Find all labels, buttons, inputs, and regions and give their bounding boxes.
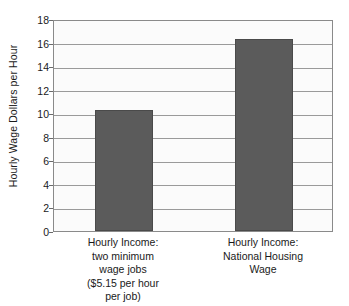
y-tick-label: 2 xyxy=(26,203,49,213)
y-tick-label: 4 xyxy=(26,180,49,190)
category-label-line: per job) xyxy=(53,290,193,304)
category-label: Hourly Income:National HousingWage xyxy=(193,236,333,277)
category-label-line: two minimum xyxy=(53,250,193,264)
x-axis-category-labels: Hourly Income:two minimumwage jobs($5.15… xyxy=(53,236,333,306)
bar xyxy=(235,39,293,231)
y-tick-label: 0 xyxy=(26,227,49,237)
bars-layer xyxy=(54,21,332,231)
y-tick-mark xyxy=(49,138,53,139)
y-axis-tick-labels: 024681012141618 xyxy=(26,20,49,232)
category-label-line: Wage xyxy=(193,263,333,277)
y-tick-label: 6 xyxy=(26,156,49,166)
category-label-line: Hourly Income: xyxy=(53,236,193,250)
y-tick-label: 16 xyxy=(26,39,49,49)
category-label-line: National Housing xyxy=(193,250,333,264)
category-label-line: wage jobs xyxy=(53,263,193,277)
category-label-line: ($5.15 per hour xyxy=(53,277,193,291)
y-axis-title-text: Hourly Wage Dollars per Hour xyxy=(7,45,19,187)
y-tick-mark xyxy=(49,20,53,21)
y-axis-title: Hourly Wage Dollars per Hour xyxy=(0,0,26,232)
y-tick-mark xyxy=(49,185,53,186)
y-tick-mark xyxy=(49,44,53,45)
category-label: Hourly Income:two minimumwage jobs($5.15… xyxy=(53,236,193,304)
y-tick-label: 10 xyxy=(26,109,49,119)
y-tick-mark xyxy=(49,161,53,162)
y-tick-label: 8 xyxy=(26,133,49,143)
y-tick-mark xyxy=(49,91,53,92)
plot-area xyxy=(53,20,333,232)
category-label-line: Hourly Income: xyxy=(193,236,333,250)
y-tick-mark xyxy=(49,114,53,115)
bar-chart: Hourly Wage Dollars per Hour 02468101214… xyxy=(0,0,349,306)
y-tick-mark xyxy=(49,208,53,209)
y-tick-mark xyxy=(49,232,53,233)
y-tick-label: 18 xyxy=(26,15,49,25)
y-tick-label: 14 xyxy=(26,62,49,72)
bar xyxy=(95,110,153,231)
y-tick-mark xyxy=(49,67,53,68)
y-tick-label: 12 xyxy=(26,86,49,96)
